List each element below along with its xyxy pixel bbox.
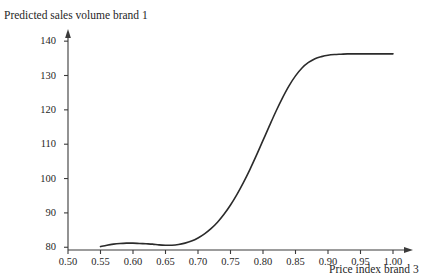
- y-tick-label: 80: [30, 241, 56, 253]
- y-axis-arrowhead: [65, 29, 71, 38]
- x-tick-label: 0.50: [51, 256, 85, 268]
- x-tick-label: 0.60: [116, 256, 150, 268]
- figure-container: Predicted sales volume brand 1 Price ind…: [0, 0, 426, 278]
- x-axis-ticks: [68, 250, 393, 254]
- x-tick-label: 0.70: [181, 256, 215, 268]
- x-tick-label: 0.95: [344, 256, 378, 268]
- x-tick-label: 0.80: [246, 256, 280, 268]
- x-tick-label: 0.55: [84, 256, 118, 268]
- x-tick-label: 1.00: [376, 256, 410, 268]
- x-axis-arrowhead: [404, 247, 413, 253]
- axis-lines: [65, 29, 413, 253]
- y-axis-ticks: [64, 41, 68, 247]
- y-tick-label: 100: [30, 173, 56, 185]
- x-tick-label: 0.75: [214, 256, 248, 268]
- x-tick-label: 0.65: [149, 256, 183, 268]
- x-tick-label: 0.85: [279, 256, 313, 268]
- y-tick-label: 140: [30, 35, 56, 47]
- y-tick-label: 130: [30, 70, 56, 82]
- chart-plot-area: [0, 0, 426, 278]
- y-tick-label: 110: [30, 138, 56, 150]
- data-series-line: [101, 54, 394, 247]
- y-tick-label: 120: [30, 104, 56, 116]
- y-tick-label: 90: [30, 207, 56, 219]
- x-tick-label: 0.90: [311, 256, 345, 268]
